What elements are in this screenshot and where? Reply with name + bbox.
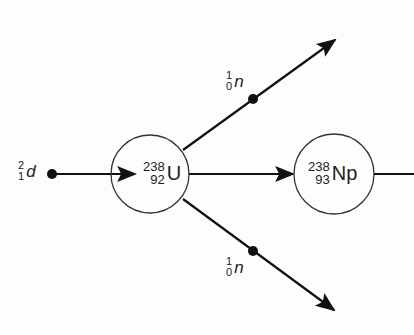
upper-neutron-arrow — [183, 40, 335, 150]
upper-neutron-symbol: n — [234, 73, 243, 90]
deuteron-dot — [47, 169, 57, 179]
uranium-atomic-number: 92 — [150, 173, 164, 186]
neptunium-label: 238 93 Np — [308, 160, 357, 186]
upper-neutron-dot — [248, 94, 258, 104]
lower-neutron-symbol: n — [234, 259, 243, 276]
deuteron-symbol: d — [26, 163, 35, 180]
lower-neutron-arrow — [183, 199, 334, 310]
uranium-label: 238 92 U — [143, 160, 181, 186]
upper-neutron-label: 1 0 n — [226, 70, 244, 92]
uranium-symbol: U — [167, 163, 181, 183]
neptunium-atomic-number: 93 — [315, 173, 329, 186]
lower-neutron-label: 1 0 n — [226, 256, 244, 278]
deuteron-atomic-number: 1 — [18, 171, 24, 182]
lower-neutron-dot — [248, 246, 258, 256]
lower-neutron-atomic-number: 0 — [226, 267, 232, 278]
deuteron-label: 2 1 d — [18, 160, 36, 182]
neptunium-symbol: Np — [332, 163, 358, 183]
upper-neutron-atomic-number: 0 — [226, 81, 232, 92]
